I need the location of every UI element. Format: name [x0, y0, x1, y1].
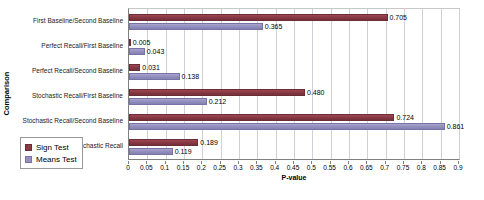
bar-value-label: 0.138 [182, 71, 200, 82]
bar-sign-test [129, 64, 140, 71]
bar-means-test [129, 73, 180, 80]
category-label: Perfect Recall/Second Baseline [32, 66, 123, 75]
bar-slot: 0.724 [129, 114, 459, 121]
x-tick-label: 0.45 [287, 164, 300, 171]
x-tick-label: 0.5 [307, 164, 316, 171]
bar-sign-test [129, 89, 305, 96]
bar-group: 0.7240.861 [129, 109, 459, 134]
bar-value-label: 0.212 [209, 96, 227, 107]
bar-means-test [129, 98, 207, 105]
bar-group: 0.4800.212 [129, 84, 459, 109]
bar-slot: 0.365 [129, 23, 459, 30]
bar-slot: 0.043 [129, 48, 459, 55]
bar-sign-test [129, 114, 394, 121]
bar-means-test [129, 23, 263, 30]
x-tick-label: 0.25 [213, 164, 226, 171]
bar-group: 0.1890.119 [129, 134, 459, 159]
x-tick-label: 0.35 [250, 164, 263, 171]
legend-label: Means Test [36, 155, 77, 164]
x-axis-ticks: 00.050.10.150.20.250.30.350.40.450.50.55… [128, 161, 460, 173]
x-tick-label: 0.9 [453, 164, 462, 171]
bar-sign-test [129, 139, 198, 146]
y-axis-title: Comparison [0, 38, 14, 148]
category-label: Perfect Recall/First Baseline [41, 41, 123, 50]
bar-value-label: 0.043 [147, 46, 165, 57]
bar-value-label: 0.365 [265, 21, 283, 32]
bar-value-label: 0.705 [390, 12, 408, 23]
bar-means-test [129, 123, 445, 130]
bar-value-label: 0.480 [307, 87, 325, 98]
bar-value-label: 0.861 [447, 121, 465, 132]
bar-slot: 0.861 [129, 123, 459, 130]
category-label: First Baseline/Second Baseline [33, 16, 123, 25]
bar-means-test [129, 148, 173, 155]
legend-swatch-icon [25, 156, 32, 163]
legend-item[interactable]: Means Test [25, 153, 77, 165]
plot-area: 0.7050.3650.0050.0430.0310.1380.4800.212… [128, 8, 460, 160]
bar-slot: 0.189 [129, 139, 459, 146]
x-tick-label: 0.1 [160, 164, 169, 171]
gridline [459, 9, 460, 159]
legend-item[interactable]: Sign Test [25, 141, 77, 153]
x-tick-label: 0.6 [343, 164, 352, 171]
bar-slot: 0.705 [129, 14, 459, 21]
x-tick-label: 0.65 [360, 164, 373, 171]
x-tick-label: 0.05 [140, 164, 153, 171]
bar-slot: 0.480 [129, 89, 459, 96]
bar-means-test [129, 48, 145, 55]
x-tick-label: 0.4 [270, 164, 279, 171]
x-tick-label: 0.15 [177, 164, 190, 171]
x-tick-label: 0.8 [417, 164, 426, 171]
x-axis-title: P-value [128, 174, 460, 181]
bar-slot: 0.031 [129, 64, 459, 71]
y-axis-title-text: Comparison [3, 71, 12, 115]
chart-legend: Sign TestMeans Test [20, 137, 83, 169]
bar-rows: 0.7050.3650.0050.0430.0310.1380.4800.212… [129, 9, 459, 159]
x-tick-label: 0.7 [380, 164, 389, 171]
category-label: Stochastic Recall/First Baseline [32, 91, 123, 100]
bar-group: 0.0310.138 [129, 59, 459, 84]
x-tick-label: 0.2 [197, 164, 206, 171]
x-tick-label: 0.55 [323, 164, 336, 171]
category-label: Stochastic Recall/Second Baseline [23, 116, 123, 125]
legend-label: Sign Test [36, 143, 69, 152]
bar-value-label: 0.189 [200, 137, 218, 148]
bar-sign-test [129, 39, 131, 46]
bar-chart: Comparison First Baseline/Second Baselin… [0, 0, 484, 200]
bar-slot: 0.212 [129, 98, 459, 105]
bar-value-label: 0.724 [396, 112, 414, 123]
bar-slot: 0.138 [129, 73, 459, 80]
x-tick-label: 0.75 [397, 164, 410, 171]
bar-slot: 0.005 [129, 39, 459, 46]
legend-swatch-icon [25, 144, 32, 151]
x-tick-label: 0 [126, 164, 130, 171]
x-tick-label: 0.85 [433, 164, 446, 171]
bar-value-label: 0.031 [142, 62, 160, 73]
x-tick-label: 0.3 [233, 164, 242, 171]
bar-slot: 0.119 [129, 148, 459, 155]
bar-value-label: 0.119 [175, 146, 192, 157]
bar-group: 0.7050.365 [129, 9, 459, 34]
bar-group: 0.0050.043 [129, 34, 459, 59]
bar-sign-test [129, 14, 388, 21]
